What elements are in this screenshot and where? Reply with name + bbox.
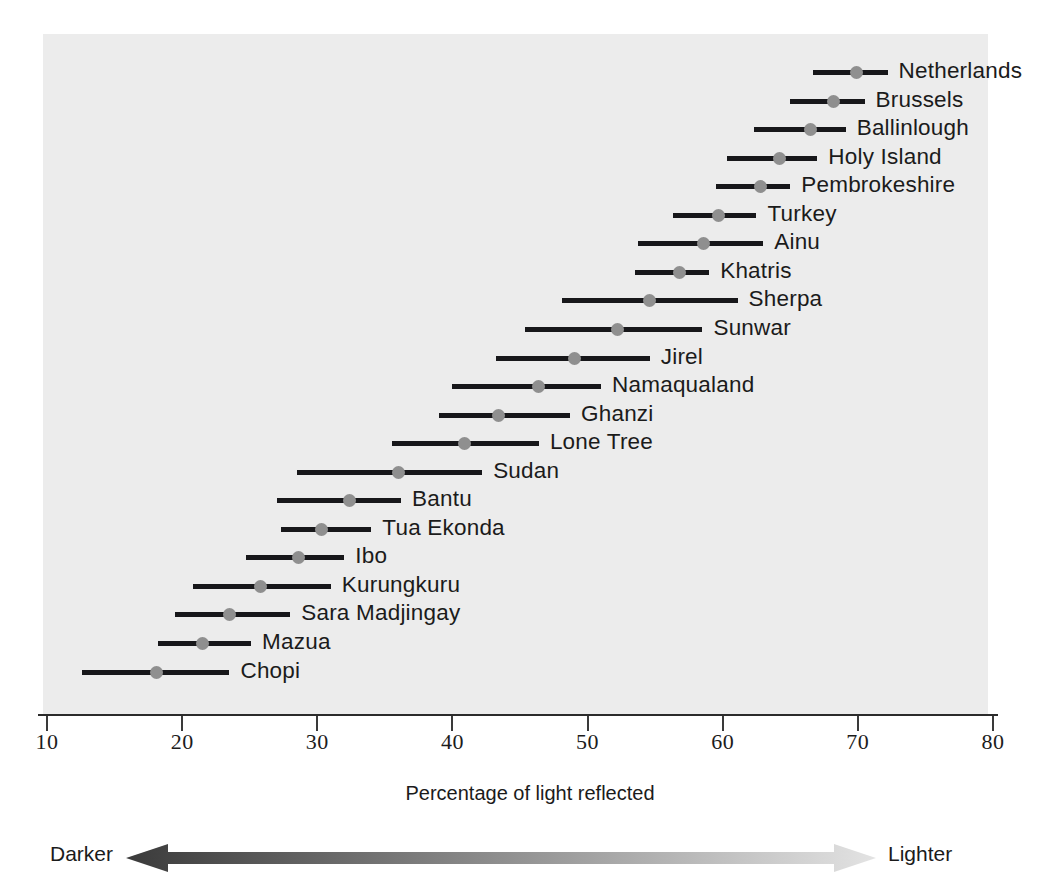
row-label: Namaqualand [612,372,754,398]
mean-point [292,551,305,564]
range-bar [277,498,401,503]
data-row: Mazua [0,631,1060,657]
data-row: Jirel [0,346,1060,372]
row-label: Ibo [355,543,387,569]
x-tick-label: 10 [17,729,77,755]
row-label: Tua Ekonda [382,515,505,541]
data-row: Ibo [0,545,1060,571]
x-tick-label: 80 [963,729,1023,755]
x-axis-title: Percentage of light reflected [0,782,1060,805]
x-tick-label: 60 [693,729,753,755]
mean-point [254,580,267,593]
row-label: Netherlands [899,58,1023,84]
mean-point [804,123,817,136]
data-row: Bantu [0,488,1060,514]
mean-point [532,380,545,393]
row-label: Kurungkuru [342,572,460,598]
x-tick-label: 70 [828,729,888,755]
data-row: Chopi [0,660,1060,686]
data-row: Namaqualand [0,374,1060,400]
row-label: Holy Island [828,144,942,170]
mean-point [754,180,767,193]
row-label: Sunwar [713,315,791,341]
data-row: Ballinlough [0,117,1060,143]
data-row: Khatris [0,260,1060,286]
mean-point [343,494,356,507]
data-row: Sudan [0,460,1060,486]
mean-point [673,266,686,279]
mean-point [196,637,209,650]
range-bar [452,384,601,389]
row-label: Ghanzi [581,401,654,427]
row-label: Khatris [720,258,791,284]
row-label: Sudan [493,458,559,484]
data-row: Lone Tree [0,431,1060,457]
mean-point [611,323,624,336]
data-row: Tua Ekonda [0,517,1060,543]
data-row: Turkey [0,203,1060,229]
mean-point [643,294,656,307]
row-label: Pembrokeshire [801,172,955,198]
x-tick-label: 40 [422,729,482,755]
mean-point [492,409,505,422]
mean-point [697,237,710,250]
x-tick-label: 20 [152,729,212,755]
data-row: Sherpa [0,288,1060,314]
mean-point [458,437,471,450]
gradient-legend: Darker Lighter [0,836,1060,880]
mean-point [773,152,786,165]
gradient-label-darker: Darker [50,842,113,866]
data-row: Sunwar [0,317,1060,343]
row-label: Turkey [768,201,837,227]
row-label: Lone Tree [550,429,653,455]
mean-point [315,523,328,536]
x-tick-label: 30 [287,729,347,755]
gradient-arrow-icon [126,836,876,880]
row-label: Bantu [412,486,472,512]
x-tick-label: 50 [558,729,618,755]
data-row: Brussels [0,89,1060,115]
data-row: Holy Island [0,146,1060,172]
mean-point [827,95,840,108]
data-row: Netherlands [0,60,1060,86]
mean-point [850,66,863,79]
data-row: Ainu [0,231,1060,257]
data-row: Pembrokeshire [0,174,1060,200]
row-label: Sherpa [749,286,823,312]
data-row: Kurungkuru [0,574,1060,600]
range-bar [297,470,482,475]
range-bar [754,127,846,132]
gradient-label-lighter: Lighter [888,842,952,866]
reflectance-chart: NetherlandsBrusselsBallinloughHoly Islan… [0,0,1060,889]
data-row: Ghanzi [0,403,1060,429]
mean-point [150,666,163,679]
row-label: Ballinlough [857,115,969,141]
data-row: Sara Madjingay [0,602,1060,628]
row-label: Brussels [876,87,964,113]
row-label: Sara Madjingay [301,600,460,626]
mean-point [568,352,581,365]
mean-point [712,209,725,222]
mean-point [223,608,236,621]
row-label: Ainu [774,229,820,255]
mean-point [392,466,405,479]
row-label: Jirel [661,344,703,370]
row-label: Chopi [240,658,300,684]
row-label: Mazua [262,629,331,655]
